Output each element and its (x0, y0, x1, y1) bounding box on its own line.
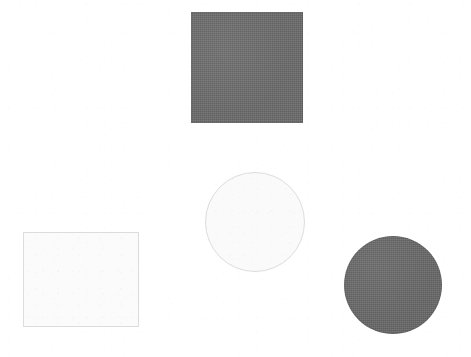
dark-circle-shape (344, 236, 442, 334)
light-circle-shape (205, 172, 305, 272)
light-square-shape (23, 232, 139, 327)
shape-canvas (0, 0, 471, 357)
dark-square-shape (191, 12, 303, 123)
